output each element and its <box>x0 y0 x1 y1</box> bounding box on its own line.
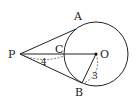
tangent-pb <box>20 54 82 83</box>
label-o: O <box>100 48 109 61</box>
center-dot <box>94 52 97 55</box>
label-length-4: 4 <box>41 57 47 67</box>
label-length-3: 3 <box>92 71 98 81</box>
label-a: A <box>73 10 83 23</box>
geometry-diagram: A P C O B 4 3 <box>0 0 137 107</box>
label-p: P <box>8 48 16 61</box>
label-c: C <box>55 43 63 56</box>
tangent-pa <box>20 29 76 54</box>
label-b: B <box>75 86 83 99</box>
